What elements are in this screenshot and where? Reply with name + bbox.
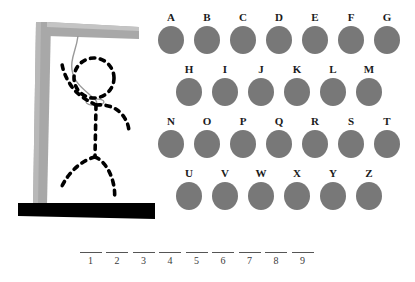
answer-slot-number-9: 9 (290, 255, 315, 267)
answer-slot-7: 7 (237, 252, 262, 267)
letter-circle-e[interactable] (302, 26, 328, 54)
letter-button-q[interactable]: Q (266, 116, 292, 158)
letter-button-c[interactable]: C (230, 12, 256, 54)
gallows-area (0, 0, 165, 225)
answer-slot-number-2: 2 (105, 255, 130, 267)
letter-button-i[interactable]: I (212, 64, 238, 106)
letter-circle-n[interactable] (158, 130, 184, 158)
letter-label-c: C (230, 12, 256, 24)
letter-label-o: O (194, 116, 220, 128)
letter-button-g[interactable]: G (374, 12, 400, 54)
letter-button-z[interactable]: Z (356, 168, 382, 210)
letter-circle-d[interactable] (266, 26, 292, 54)
letter-button-p[interactable]: P (230, 116, 256, 158)
letter-circle-t[interactable] (374, 130, 400, 158)
letter-button-s[interactable]: S (338, 116, 364, 158)
letter-button-r[interactable]: R (302, 116, 328, 158)
letter-circle-k[interactable] (284, 78, 310, 106)
answer-slot-line-1 (80, 252, 102, 253)
answer-slot-number-3: 3 (131, 255, 156, 267)
letter-button-x[interactable]: X (284, 168, 310, 210)
letter-button-b[interactable]: B (194, 12, 220, 54)
letter-circle-s[interactable] (338, 130, 364, 158)
letter-label-w: W (248, 168, 274, 180)
letter-circle-u[interactable] (176, 182, 202, 210)
letter-label-d: D (266, 12, 292, 24)
letter-circle-a[interactable] (158, 26, 184, 54)
hangman-game: ABCDEFGHIJKLMNOPQRSTUVWXYZ 123456789 (0, 0, 415, 282)
letter-label-n: N (158, 116, 184, 128)
letter-button-d[interactable]: D (266, 12, 292, 54)
letter-circle-m[interactable] (356, 78, 382, 106)
answer-slot-line-8 (265, 252, 287, 253)
answer-slot-8: 8 (264, 252, 289, 267)
letter-circle-x[interactable] (284, 182, 310, 210)
answer-slot-5: 5 (184, 252, 209, 267)
letter-button-u[interactable]: U (176, 168, 202, 210)
letter-button-h[interactable]: H (176, 64, 202, 106)
letter-circle-z[interactable] (356, 182, 382, 210)
letter-label-z: Z (356, 168, 382, 180)
letter-label-y: Y (320, 168, 346, 180)
letter-circle-g[interactable] (374, 26, 400, 54)
letter-button-k[interactable]: K (284, 64, 310, 106)
letter-circle-w[interactable] (248, 182, 274, 210)
answer-slot-line-7 (239, 252, 261, 253)
letter-button-l[interactable]: L (320, 64, 346, 106)
figure-left-leg (62, 157, 95, 186)
letter-circle-f[interactable] (338, 26, 364, 54)
figure-right-leg (95, 157, 115, 200)
letter-button-j[interactable]: J (248, 64, 274, 106)
letter-label-m: M (356, 64, 382, 76)
letter-button-t[interactable]: T (374, 116, 400, 158)
figure-head (74, 58, 114, 98)
letter-label-l: L (320, 64, 346, 76)
letter-button-f[interactable]: F (338, 12, 364, 54)
gallows-base-icon (18, 203, 155, 219)
letter-label-a: A (158, 12, 184, 24)
letter-circle-y[interactable] (320, 182, 346, 210)
letter-circle-o[interactable] (194, 130, 220, 158)
letter-circle-q[interactable] (266, 130, 292, 158)
answer-slot-line-4 (159, 252, 181, 253)
answer-slot-2: 2 (105, 252, 130, 267)
answer-slot-4: 4 (158, 252, 183, 267)
figure-right-arm (96, 105, 129, 133)
letter-label-b: B (194, 12, 220, 24)
letter-circle-j[interactable] (248, 78, 274, 106)
letter-circle-c[interactable] (230, 26, 256, 54)
answer-slot-9: 9 (290, 252, 315, 267)
answer-slot-line-6 (212, 252, 234, 253)
letter-button-a[interactable]: A (158, 12, 184, 54)
letter-button-o[interactable]: O (194, 116, 220, 158)
answer-slot-1: 1 (78, 252, 103, 267)
letter-label-f: F (338, 12, 364, 24)
letter-label-p: P (230, 116, 256, 128)
letter-circle-i[interactable] (212, 78, 238, 106)
letter-label-e: E (302, 12, 328, 24)
answer-slot-line-5 (186, 252, 208, 253)
answer-slot-line-9 (292, 252, 314, 253)
letter-label-u: U (176, 168, 202, 180)
alphabet-grid: ABCDEFGHIJKLMNOPQRSTUVWXYZ (158, 12, 415, 217)
letter-circle-r[interactable] (302, 130, 328, 158)
letter-label-x: X (284, 168, 310, 180)
letter-button-y[interactable]: Y (320, 168, 346, 210)
letter-button-e[interactable]: E (302, 12, 328, 54)
letter-circle-h[interactable] (176, 78, 202, 106)
letter-circle-v[interactable] (212, 182, 238, 210)
letter-button-v[interactable]: V (212, 168, 238, 210)
letter-circle-l[interactable] (320, 78, 346, 106)
letter-circle-b[interactable] (194, 26, 220, 54)
letter-label-q: Q (266, 116, 292, 128)
figure-torso (95, 105, 96, 157)
letter-label-s: S (338, 116, 364, 128)
letter-button-w[interactable]: W (248, 168, 274, 210)
letter-label-h: H (176, 64, 202, 76)
letter-button-n[interactable]: N (158, 116, 184, 158)
answer-slot-number-8: 8 (264, 255, 289, 267)
letter-button-m[interactable]: M (356, 64, 382, 106)
answer-slot-number-6: 6 (211, 255, 236, 267)
letter-label-v: V (212, 168, 238, 180)
letter-circle-p[interactable] (230, 130, 256, 158)
